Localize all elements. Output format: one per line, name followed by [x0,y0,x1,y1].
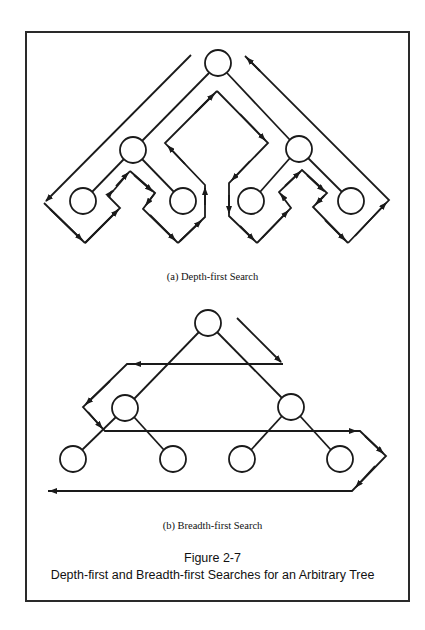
dfs-node-left [120,137,146,163]
dfs-node-right-left [238,188,264,214]
bfs-node-left-right [160,446,186,472]
figure-number: Figure 2-7 [0,551,425,565]
bfs-node-left [112,395,138,421]
bfs-node-right [278,394,304,420]
bfs-node-left-left [60,446,86,472]
bfs-node-right-left [229,446,255,472]
dfs-node-left-left [70,188,96,214]
dfs-caption: (a) Depth-first Search [0,271,425,282]
dfs-node-right [286,136,312,162]
search-diagrams [0,0,425,630]
bfs-node-root [195,310,221,336]
dfs-node-root [205,50,231,76]
bfs-node-right-right [327,446,353,472]
figure-title: Depth-first and Breadth-first Searches f… [0,568,425,582]
bfs-tree [60,310,353,472]
dfs-node-left-right [170,188,196,214]
dfs-node-right-right [338,188,364,214]
dfs-traversal-path [44,55,389,243]
bfs-caption: (b) Breadth-first Search [0,520,425,531]
